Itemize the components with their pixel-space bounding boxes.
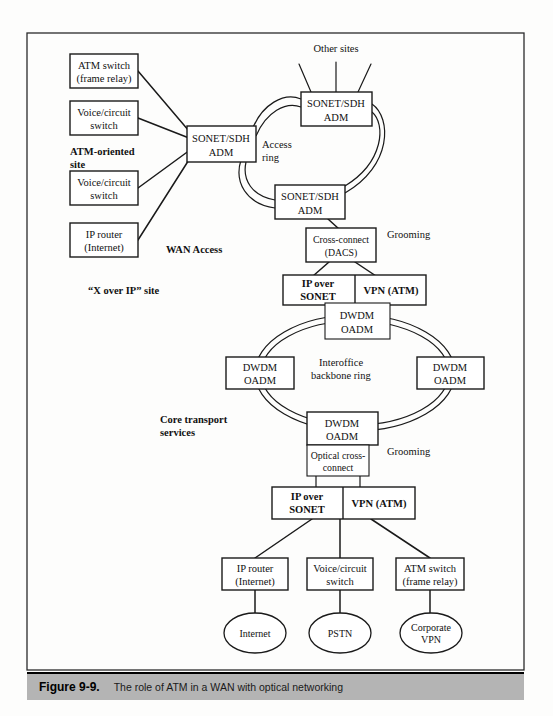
- node-service-pair-bottom[interactable]: IP over SONET VPN (ATM): [272, 487, 415, 519]
- node-label-line2: (frame relay): [76, 73, 132, 85]
- label-core-transport-line1: Core transport: [160, 414, 228, 425]
- node-label-line1: DWDM: [433, 362, 468, 373]
- node-label-line1: IP router: [237, 563, 274, 574]
- cloud-label: PSTN: [328, 628, 352, 639]
- node-label-line2: OADM: [326, 431, 359, 442]
- node-label-line1: Voice/circuit: [77, 177, 131, 188]
- node-atm-switch-bottom[interactable]: ATM switch (frame relay): [396, 558, 464, 590]
- figure-page: ATM switch (frame relay) Voice/circuit s…: [0, 0, 553, 716]
- node-label-line2: (Internet): [235, 576, 275, 588]
- node-cross-connect-dacs[interactable]: Cross-connect (DACS): [306, 228, 376, 262]
- node-label-line1: ATM switch: [404, 563, 457, 574]
- node-voice-switch-top[interactable]: Voice/circuit switch: [70, 101, 138, 135]
- service-pair-left-line1: IP over: [291, 491, 324, 502]
- node-pstn-cloud[interactable]: PSTN: [309, 613, 371, 653]
- label-atm-oriented-site-line1: ATM-oriented: [70, 146, 135, 157]
- service-pair-left-line2: SONET: [289, 504, 325, 515]
- annotation-other-sites: Other sites: [313, 43, 358, 54]
- node-optical-cross-connect[interactable]: Optical cross- connect: [307, 445, 369, 476]
- access-links: [138, 71, 192, 240]
- node-label-line2: ADM: [298, 205, 323, 216]
- node-label-line2: OADM: [244, 375, 277, 386]
- cloud-label-line2: VPN: [421, 634, 441, 645]
- node-label-line2: (DACS): [325, 247, 358, 259]
- node-adm-hub[interactable]: SONET/SDH ADM: [187, 126, 256, 162]
- label-wan-access: WAN Access: [166, 244, 222, 255]
- node-service-pair-top[interactable]: IP over SONET VPN (ATM): [283, 275, 426, 305]
- node-label-line2: switch: [326, 576, 354, 587]
- node-voice-switch-bottom[interactable]: Voice/circuit switch: [70, 171, 138, 205]
- node-label-line2: (frame relay): [402, 576, 458, 588]
- node-label-line1: SONET/SDH: [192, 133, 250, 144]
- node-dwdm-left[interactable]: DWDM OADM: [226, 357, 294, 389]
- annotation-grooming-top: Grooming: [387, 229, 431, 240]
- node-atm-switch-top[interactable]: ATM switch (frame relay): [70, 54, 138, 88]
- crossconnect-to-services-links: [313, 262, 376, 276]
- node-voice-switch-edge[interactable]: Voice/circuit switch: [307, 558, 373, 590]
- figure-caption-number: Figure 9-9.: [39, 680, 100, 694]
- node-label-line1: Voice/circuit: [313, 563, 367, 574]
- node-adm-lower[interactable]: SONET/SDH ADM: [275, 185, 345, 219]
- node-label-line2: switch: [90, 120, 118, 131]
- annotation-backbone-ring-line2: backbone ring: [311, 370, 372, 381]
- node-label-line1: SONET/SDH: [281, 191, 339, 202]
- node-internet-cloud[interactable]: Internet: [224, 613, 286, 653]
- node-label-line2: ADM: [324, 112, 349, 123]
- node-adm-top[interactable]: SONET/SDH ADM: [301, 92, 372, 126]
- figure-caption-text: The role of ATM in a WAN with optical ne…: [114, 681, 343, 693]
- node-label-line1: Voice/circuit: [77, 107, 131, 118]
- services-to-edge-links: [255, 519, 430, 558]
- label-x-over-ip-site: “X over IP” site: [88, 285, 160, 296]
- annotation-grooming-bottom: Grooming: [387, 446, 431, 457]
- node-label-line1: DWDM: [243, 362, 278, 373]
- figure-caption-bar: Figure 9-9. The role of ATM in a WAN wit…: [27, 672, 524, 700]
- annotation-backbone-ring-line1: Interoffice: [319, 357, 363, 368]
- node-dwdm-top[interactable]: DWDM OADM: [325, 303, 390, 339]
- service-pair-left-line1: IP over: [302, 278, 335, 289]
- node-label-line1: DWDM: [340, 310, 375, 321]
- edge-to-cloud-links: [255, 590, 430, 614]
- cloud-label-line1: Corporate: [411, 622, 452, 633]
- node-label-line1: SONET/SDH: [307, 98, 365, 109]
- service-pair-right: VPN (ATM): [364, 285, 419, 297]
- label-core-transport-line2: services: [160, 427, 195, 438]
- node-label-line1: IP router: [86, 229, 123, 240]
- service-pair-left-line2: SONET: [300, 291, 336, 302]
- node-label-line1: Cross-connect: [313, 234, 369, 245]
- cloud-label: Internet: [239, 628, 270, 639]
- node-label-line2: OADM: [434, 375, 467, 386]
- node-dwdm-right[interactable]: DWDM OADM: [417, 357, 484, 389]
- node-label-line2: OADM: [341, 324, 374, 335]
- other-sites-links: [299, 62, 371, 92]
- node-label-line1: ATM switch: [78, 60, 131, 71]
- node-ip-router-bottom[interactable]: IP router (Internet): [222, 558, 288, 590]
- label-atm-oriented-site-line2: site: [70, 159, 86, 170]
- node-label-line1: DWDM: [325, 418, 360, 429]
- annotation-access-ring-line2: ring: [262, 152, 280, 163]
- annotation-access-ring-line1: Access: [262, 139, 292, 150]
- oxc-to-services-links: [316, 475, 360, 487]
- node-ip-router-top[interactable]: IP router (Internet): [70, 223, 138, 257]
- service-pair-right: VPN (ATM): [352, 498, 407, 510]
- node-label-line2: switch: [90, 190, 118, 201]
- node-label-line2: connect: [323, 462, 354, 473]
- node-dwdm-bottom[interactable]: DWDM OADM: [307, 412, 378, 445]
- node-label-line1: Optical cross-: [311, 450, 366, 461]
- node-label-line2: ADM: [209, 147, 234, 158]
- node-label-line2: (Internet): [84, 242, 124, 254]
- node-corporate-vpn-cloud[interactable]: Corporate VPN: [400, 613, 462, 653]
- network-diagram: ATM switch (frame relay) Voice/circuit s…: [0, 0, 553, 716]
